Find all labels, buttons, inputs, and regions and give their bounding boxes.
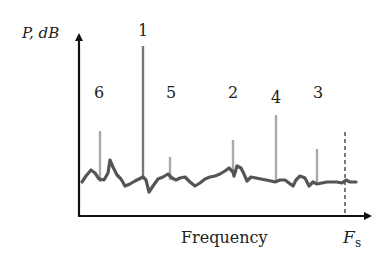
noise-floor-curve bbox=[82, 160, 356, 192]
fs-label: F bbox=[342, 227, 356, 247]
peak-label-3: 3 bbox=[313, 83, 323, 102]
y-axis-label: P, dB bbox=[21, 24, 59, 42]
x-axis-label: Frequency bbox=[181, 228, 268, 247]
peak-label-2: 2 bbox=[228, 83, 238, 102]
peak-label-1: 1 bbox=[138, 21, 148, 40]
peak-label-5: 5 bbox=[166, 83, 176, 102]
peak-label-6: 6 bbox=[94, 83, 104, 102]
spectrum-chart: P, dB 1 6 5 2 4 3 Frequency F s bbox=[0, 0, 389, 265]
peak-label-4: 4 bbox=[271, 88, 281, 107]
fs-label-subscript: s bbox=[355, 236, 361, 250]
